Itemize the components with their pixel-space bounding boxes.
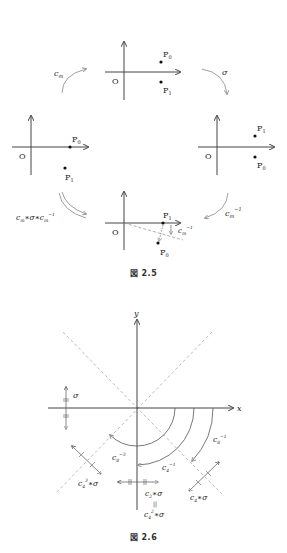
svg-text:||: || bbox=[153, 500, 157, 508]
svg-text:O: O bbox=[19, 152, 26, 161]
plot-right: O P1 P0 bbox=[198, 116, 274, 175]
arrow-cm: cm bbox=[54, 69, 86, 93]
figure-2-6: x y σ c8−3 c4−1 c8−1 c43∗σ c4∗σ c2∗σ bbox=[48, 309, 242, 520]
svg-text:P1: P1 bbox=[163, 211, 172, 221]
svg-text:P0: P0 bbox=[257, 161, 266, 171]
plot-left: O P0 P1 bbox=[12, 116, 88, 183]
plot-bottom: O P1 P0 cm−1 bbox=[105, 192, 193, 258]
plot-top: O P0 P1 bbox=[105, 42, 180, 100]
svg-text:P0: P0 bbox=[160, 248, 169, 258]
svg-text:σ: σ bbox=[73, 391, 79, 400]
svg-text:c4∗σ: c4∗σ bbox=[190, 493, 208, 503]
svg-text:cm−1: cm−1 bbox=[225, 206, 242, 219]
svg-text:c8−3: c8−3 bbox=[112, 452, 126, 463]
svg-text:P0: P0 bbox=[72, 135, 81, 145]
arrow-cm-inverse: cm−1 bbox=[205, 193, 242, 219]
svg-text:σ: σ bbox=[222, 68, 228, 77]
svg-text:cm∗σ∗cm−1: cm∗σ∗cm−1 bbox=[16, 212, 55, 223]
svg-text:P0: P0 bbox=[163, 50, 172, 60]
svg-text:c4−1: c4−1 bbox=[162, 462, 176, 473]
svg-text:c43∗σ: c43∗σ bbox=[78, 478, 99, 489]
svg-text:O: O bbox=[112, 228, 119, 237]
svg-text:y: y bbox=[133, 309, 139, 318]
svg-text:cm−1: cm−1 bbox=[178, 225, 193, 236]
svg-text:c2∗σ: c2∗σ bbox=[145, 489, 163, 499]
svg-text:P1: P1 bbox=[65, 173, 74, 183]
arrow-sigma: σ bbox=[202, 68, 228, 94]
arrow-composite: cm∗σ∗cm−1 bbox=[16, 192, 86, 223]
svg-text:P1: P1 bbox=[163, 86, 172, 96]
svg-text:O: O bbox=[205, 152, 212, 161]
svg-text:O: O bbox=[112, 77, 119, 86]
svg-text:c8−1: c8−1 bbox=[213, 434, 227, 445]
svg-text:x: x bbox=[237, 404, 242, 413]
svg-text:cm: cm bbox=[54, 69, 63, 79]
svg-text:P1: P1 bbox=[257, 124, 266, 134]
figure-2-5-caption: 図 2.5 bbox=[0, 267, 287, 278]
svg-text:c42∗σ: c42∗σ bbox=[144, 509, 165, 520]
figure-2-6-caption: 図 2.6 bbox=[0, 531, 287, 542]
